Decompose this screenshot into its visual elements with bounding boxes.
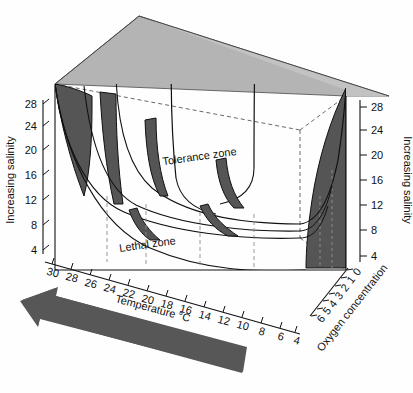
salinity-left-tick-0: 4 <box>31 244 37 256</box>
salinity-right-tick-5: 24 <box>371 124 383 136</box>
tolerance-envelope-chart: 4 8 12 16 20 24 28 Increasing salinity 4… <box>0 0 413 393</box>
salinity-left-tick-3: 16 <box>25 169 37 181</box>
salinity-right-tick-3: 16 <box>371 174 383 186</box>
salinity-left-axis-title: Increasing salinity <box>4 136 16 224</box>
salinity-right-tick-2: 12 <box>371 199 383 211</box>
salinity-right-tick-6: 28 <box>371 101 383 113</box>
figure-container: 4 8 12 16 20 24 28 Increasing salinity 4… <box>0 0 413 393</box>
salinity-right-axis-title: Increasing salinity <box>402 136 413 224</box>
salinity-left-tick-2: 12 <box>25 194 37 206</box>
salinity-left-tick-5: 24 <box>25 120 37 132</box>
salinity-left-tick-1: 8 <box>31 219 37 231</box>
salinity-right-tick-4: 20 <box>371 149 383 161</box>
salinity-right-tick-0: 4 <box>371 250 377 262</box>
salinity-right-tick-1: 8 <box>371 224 377 236</box>
salinity-left-tick-4: 20 <box>25 144 37 156</box>
salinity-left-tick-6: 28 <box>25 98 37 110</box>
